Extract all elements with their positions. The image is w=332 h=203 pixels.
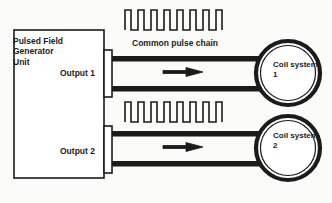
coil-system-1-name: Coil system xyxy=(273,60,318,69)
output-1-port-connector xyxy=(104,50,112,97)
common-pulse-chain-label: Common pulse chain xyxy=(132,38,218,48)
coil-system-1-label: Coil system 1 xyxy=(273,60,318,80)
output-1-label: Output 1 xyxy=(60,68,95,78)
output-2-port-connector xyxy=(104,126,112,173)
pulse-chain-upper xyxy=(125,10,222,30)
channel-1 xyxy=(104,50,276,97)
arrow-right-icon-channel-1 xyxy=(163,68,203,77)
waveguide-2-top-conductor xyxy=(110,131,276,137)
generator-title-line-1: Pulsed Field xyxy=(13,36,63,46)
pulse-chain-lower xyxy=(125,102,222,122)
waveguide-1-top-conductor xyxy=(110,56,276,62)
coil-system-1-index: 1 xyxy=(273,70,318,80)
generator-title-line-2: Generator xyxy=(13,46,54,56)
arrow-right-icon-channel-2 xyxy=(163,143,203,152)
coil-system-2-label: Coil system 2 xyxy=(273,131,318,151)
channel-2 xyxy=(104,126,276,173)
waveguide-1-bottom-conductor xyxy=(110,86,276,92)
waveguide-2-bottom-conductor xyxy=(110,161,276,167)
output-2-label: Output 2 xyxy=(60,146,95,156)
coil-system-2-name: Coil system xyxy=(273,131,318,140)
generator-unit-title: Pulsed Field Generator Unit xyxy=(13,36,63,67)
coil-system-2-index: 2 xyxy=(273,141,318,151)
pulsed-field-system-diagram: Pulsed Field Generator Unit Output 1 Out… xyxy=(0,0,332,203)
generator-title-line-3: Unit xyxy=(13,57,30,67)
